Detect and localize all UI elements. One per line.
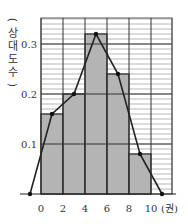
y-tick-label: 0.2 [21, 89, 37, 100]
x-tick-label: 4 [82, 203, 88, 214]
y-label-char: ( [6, 18, 19, 22]
histogram-chart: 0246810 0.10.20.3 (권) (상대도수) [0, 0, 188, 224]
y-label-char: ) [6, 83, 19, 87]
polygon-point [28, 192, 32, 196]
histogram-bar [129, 154, 151, 194]
histogram-bar [41, 114, 63, 194]
polygon-point [138, 152, 142, 156]
x-tick-label: 8 [126, 203, 132, 214]
x-axis-ticks: 0246810 [38, 203, 158, 214]
polygon-point [160, 192, 164, 196]
histogram-bar [85, 34, 107, 194]
y-label-char: 수 [8, 66, 18, 79]
x-tick-label: 10 [145, 203, 158, 214]
polygon-point [72, 92, 76, 96]
y-tick-label: 0.3 [21, 39, 37, 50]
y-axis-label: (상대도수) [6, 18, 19, 87]
polygon-point [116, 72, 120, 76]
y-label-char: 상 [8, 27, 18, 40]
x-tick-label: 2 [60, 203, 66, 214]
x-tick-label: 6 [104, 203, 110, 214]
polygon-point [94, 32, 98, 36]
x-axis-unit-label: (권) [161, 203, 178, 214]
y-label-char: 도 [8, 53, 18, 66]
x-tick-label: 0 [38, 203, 44, 214]
y-tick-label: 0.1 [21, 139, 37, 150]
y-axis-ticks: 0.10.20.3 [21, 39, 37, 150]
y-label-char: 대 [8, 40, 18, 53]
polygon-point [50, 112, 54, 116]
histogram-bar [107, 74, 129, 194]
